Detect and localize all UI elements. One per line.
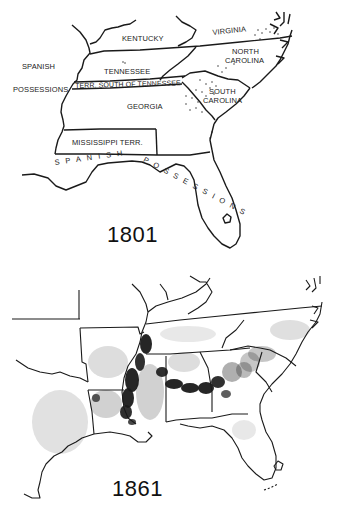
label-georgia: GEORGIA	[127, 102, 163, 111]
label-mississippi-territory: MISSISSIPPI TERR.	[72, 138, 143, 147]
map-1801: KENTUCKY VIRGINIA NORTH CAROLINA SPANISH…	[0, 0, 344, 262]
year-label-1801: 1801	[107, 222, 158, 248]
label-north-carolina-line1: NORTH	[232, 47, 259, 56]
map-1861: 1861	[0, 262, 344, 513]
label-south-carolina-line1: SOUTH	[209, 87, 236, 96]
population-density-1861	[32, 320, 310, 454]
label-north-carolina-line2: CAROLINA	[225, 56, 264, 65]
label-spanish-possessions-west-line2: POSSESSIONS	[13, 85, 68, 94]
label-tennessee: TENNESSEE	[104, 67, 150, 76]
label-spanish-possessions-west-line1: SPANISH	[22, 62, 55, 71]
label-south-carolina-line2: CAROLINA	[203, 96, 242, 105]
label-kentucky: KENTUCKY	[122, 34, 164, 43]
year-label-1861: 1861	[112, 476, 163, 502]
map-1801-outline	[0, 0, 344, 262]
map-1861-outline	[0, 262, 344, 513]
